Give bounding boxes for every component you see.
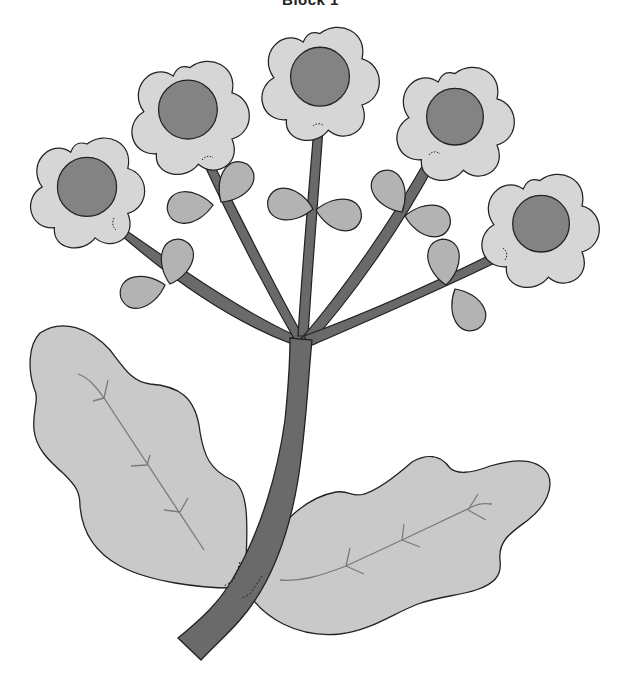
flower-2 bbox=[132, 61, 249, 174]
flower-center bbox=[513, 195, 570, 252]
flower-4 bbox=[397, 67, 514, 180]
flower-center bbox=[57, 157, 116, 216]
flower-1 bbox=[31, 138, 145, 248]
big-leaf-left bbox=[30, 326, 247, 588]
stem-to-flower-3 bbox=[298, 128, 323, 336]
flower-center bbox=[159, 80, 218, 139]
flower-applique-illustration bbox=[0, 0, 621, 682]
flower-5 bbox=[482, 174, 599, 287]
flower-3 bbox=[262, 27, 379, 140]
flower-center bbox=[427, 88, 484, 145]
flower-center bbox=[291, 47, 350, 106]
